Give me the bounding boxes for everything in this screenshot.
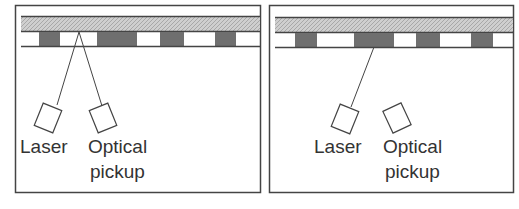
laser-box [331,104,359,134]
optical-disc-diagram: Laser Optical pickup Laser Optical picku… [0,0,519,209]
laser-beam [57,32,79,105]
disc-substrate [21,17,260,32]
optical-pickup-box [383,103,411,133]
pickup-label-line1: Optical [88,136,147,157]
panel-right: Laser Optical pickup [270,6,514,193]
pickup-label-line2: pickup [90,161,145,182]
laser-box [34,103,62,133]
pickup-label-line1: Optical [383,136,442,157]
disc-pits [39,32,236,46]
pickup-label-line2: pickup [385,161,440,182]
laser-beam [351,47,374,107]
optical-pickup-box [89,103,117,133]
laser-label: Laser [20,136,68,157]
laser-label: Laser [314,136,362,157]
panel-left: Laser Optical pickup [16,6,261,193]
disc-substrate [275,18,513,33]
disc-pits [295,33,493,47]
